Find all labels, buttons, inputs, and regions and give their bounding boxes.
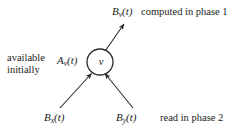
incoming-right-base: B: [116, 111, 123, 123]
outgoing-symbol-arg: (t): [122, 5, 132, 17]
label-incoming-right-symbol: By(t): [116, 111, 136, 124]
label-available-initially: availableinitially: [7, 52, 45, 76]
incoming-left-base: B: [44, 111, 51, 123]
incoming-left-subscript: x: [51, 116, 54, 125]
label-outgoing-symbol: Bv(t): [112, 5, 132, 18]
label-incoming-left-symbol: Bx(t): [44, 111, 64, 124]
incoming-right-subscript: y: [123, 116, 126, 125]
available-symbol-base: A: [57, 54, 64, 66]
label-available-symbol: Av(t): [57, 54, 77, 67]
available-note-line-1: available: [7, 52, 45, 63]
node-label-v: v: [88, 56, 114, 67]
outgoing-symbol-subscript: v: [119, 10, 122, 19]
incoming-right-arg: (t): [126, 111, 136, 123]
available-symbol-subscript: v: [64, 59, 67, 68]
available-note-line-2: initially: [7, 64, 40, 75]
label-read-in-phase-2: read in phase 2: [160, 112, 223, 124]
incoming-edge-bx: [60, 74, 92, 109]
node-diagram: v Bv(t) computed in phase 1 Av(t) availa…: [0, 0, 236, 133]
label-computed-in-phase-1: computed in phase 1: [141, 6, 228, 18]
outgoing-edge-bv: [106, 24, 125, 51]
outgoing-symbol-base: B: [112, 5, 119, 17]
incoming-edge-by: [105, 74, 133, 109]
incoming-left-arg: (t): [54, 111, 64, 123]
available-symbol-arg: (t): [67, 54, 77, 66]
